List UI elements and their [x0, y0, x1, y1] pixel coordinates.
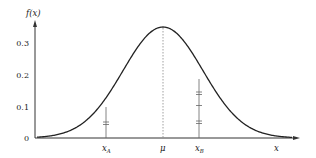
x-tick-labels: xA μ xB — [102, 143, 204, 154]
y-tick-0.1: 0.1 — [16, 103, 29, 112]
xb-guide — [196, 79, 202, 138]
x-axis-label: x — [274, 143, 279, 153]
mu-label: μ — [160, 143, 166, 153]
xb-label: xB — [195, 143, 204, 154]
y-tick-0.3: 0.3 — [16, 39, 29, 48]
xa-guide — [103, 107, 109, 138]
xa-label: xA — [102, 143, 111, 154]
y-axis-arrow-icon — [33, 20, 37, 27]
y-tick-0.2: 0.2 — [16, 71, 29, 80]
axes — [33, 20, 300, 140]
x-axis-arrow-icon — [293, 136, 300, 140]
y-tick-0: 0 — [24, 134, 29, 143]
density-curve — [37, 27, 292, 137]
y-tick-labels: 0 0.1 0.2 0.3 — [16, 39, 29, 143]
normal-distribution-chart: 0 0.1 0.2 0.3 f(x) x xA μ xB — [0, 0, 316, 158]
y-axis-label: f(x) — [25, 8, 41, 18]
